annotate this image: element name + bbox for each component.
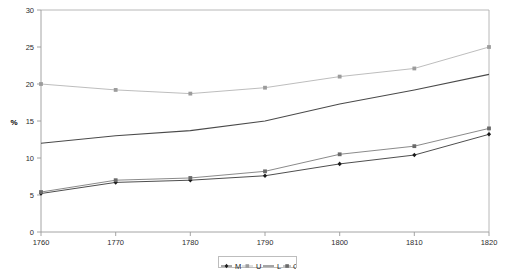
legend-item-u: U (242, 262, 261, 271)
chart-svg: 30 25 20 15 10 5 0 % 1760 1770 1780 1790… (0, 0, 506, 273)
data-point-c-1770 (114, 178, 118, 182)
data-point-c-1760 (39, 190, 43, 194)
x-tick-label: 1790 (257, 238, 274, 247)
x-tick-labels: 1760 1770 1780 1790 1800 1810 1820 (33, 238, 498, 247)
chart-legend: M U L C (218, 256, 297, 268)
legend-item-l: L (263, 262, 281, 271)
data-point-u-1820 (487, 45, 491, 49)
data-point-m-1790 (263, 173, 267, 178)
legend-label-c: C (293, 262, 296, 271)
data-point-c-1800 (338, 152, 342, 156)
series-line-c (41, 128, 489, 192)
y-tick-label: 10 (26, 154, 34, 163)
series-line-l (41, 74, 489, 143)
x-tick-label: 1800 (331, 238, 348, 247)
y-axis-title: % (10, 118, 17, 127)
y-tick-label: 0 (30, 228, 34, 237)
data-point-m-1800 (338, 162, 342, 167)
y-tick-label: 30 (26, 6, 34, 15)
series-m (39, 132, 491, 196)
data-point-c-1820 (487, 127, 491, 131)
y-tick-label: 20 (26, 80, 34, 89)
x-tick-label: 1780 (182, 238, 199, 247)
y-tick-label: 15 (26, 117, 34, 126)
legend-label-m: M (235, 262, 241, 271)
x-tick-label: 1760 (33, 238, 50, 247)
data-point-u-1800 (338, 75, 342, 79)
x-tick-label: 1820 (481, 238, 498, 247)
data-point-m-1820 (487, 132, 491, 137)
series-l (41, 74, 489, 143)
chart-container: 30 25 20 15 10 5 0 % 1760 1770 1780 1790… (0, 0, 506, 273)
data-point-m-1810 (412, 153, 416, 158)
x-tick-label: 1810 (406, 238, 423, 247)
y-tick-labels: 30 25 20 15 10 5 0 (26, 6, 34, 237)
data-point-u-1760 (39, 82, 43, 86)
y-tick-label: 25 (26, 43, 34, 52)
legend-swatches: M U L C (219, 261, 296, 271)
data-series-layer (39, 45, 491, 196)
legend-label-u: U (256, 262, 261, 271)
y-axis-ticks (37, 10, 41, 232)
x-axis-ticks (41, 232, 489, 236)
legend-label-l: L (277, 262, 281, 271)
data-point-u-1810 (412, 67, 416, 71)
y-tick-label: 5 (30, 191, 34, 200)
data-point-u-1770 (114, 88, 118, 92)
series-line-m (41, 134, 489, 193)
data-point-c-1810 (412, 144, 416, 148)
x-tick-label: 1770 (107, 238, 124, 247)
data-point-u-1790 (263, 86, 267, 90)
data-point-c-1780 (188, 176, 192, 180)
legend-item-c: C (283, 262, 296, 271)
data-point-c-1790 (263, 169, 267, 173)
data-point-u-1780 (188, 92, 192, 96)
legend-item-m: M (221, 262, 241, 271)
